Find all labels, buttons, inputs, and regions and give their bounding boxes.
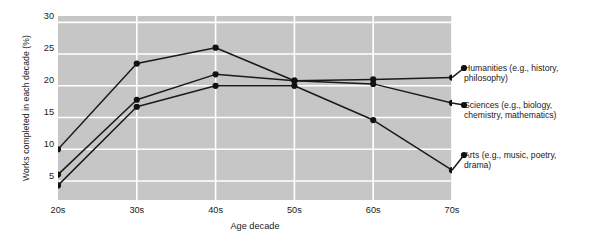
legend-entry-sciences: Sciences (e.g., biology, chemistry, math… bbox=[464, 100, 601, 121]
series-line bbox=[58, 48, 452, 150]
legend-label-line2: drama) bbox=[464, 160, 601, 170]
data-point-marker bbox=[370, 81, 376, 87]
y-tick-label: 10 bbox=[32, 139, 54, 149]
x-tick-label: 30s bbox=[117, 204, 157, 216]
y-tick-label: 15 bbox=[32, 107, 54, 117]
y-tick-label: 5 bbox=[32, 171, 54, 181]
legend-label-line2: philosophy) bbox=[464, 73, 601, 83]
legend-label-line1: Humanities (e.g., history, bbox=[464, 63, 601, 73]
data-point-marker bbox=[134, 60, 140, 66]
legend: Humanities (e.g., history, philosophy) S… bbox=[452, 0, 601, 241]
x-tick-label: 20s bbox=[38, 204, 78, 216]
data-point-marker bbox=[134, 104, 140, 110]
data-point-marker bbox=[213, 45, 219, 51]
data-point-marker bbox=[370, 117, 376, 123]
x-tick-label: 60s bbox=[353, 204, 393, 216]
line-chart: Works completed in each decade (%) 30 25… bbox=[0, 0, 601, 241]
plot-area bbox=[58, 16, 452, 200]
x-axis-tick-labels: 20s 30s 40s 50s 60s 70s bbox=[58, 204, 452, 218]
legend-entry-humanities: Humanities (e.g., history, philosophy) bbox=[464, 63, 601, 84]
data-point-marker bbox=[291, 83, 297, 89]
x-tick-label: 50s bbox=[274, 204, 314, 216]
legend-label-line1: Arts (e.g., music, poetry, bbox=[464, 150, 601, 160]
legend-label-line2: chemistry, mathematics) bbox=[464, 110, 601, 120]
data-point-marker bbox=[213, 83, 219, 89]
y-tick-label: 30 bbox=[32, 11, 54, 21]
plot-canvas bbox=[58, 16, 452, 200]
series-line bbox=[58, 74, 452, 174]
x-axis-title: Age decade bbox=[58, 220, 452, 232]
y-tick-label: 25 bbox=[32, 43, 54, 53]
y-tick-label: 20 bbox=[32, 75, 54, 85]
data-point-marker bbox=[213, 71, 219, 77]
legend-label-line1: Sciences (e.g., biology, bbox=[464, 100, 601, 110]
legend-entry-arts: Arts (e.g., music, poetry, drama) bbox=[464, 150, 601, 171]
x-tick-label: 40s bbox=[196, 204, 236, 216]
series-line bbox=[58, 86, 452, 186]
data-point-marker bbox=[134, 97, 140, 103]
